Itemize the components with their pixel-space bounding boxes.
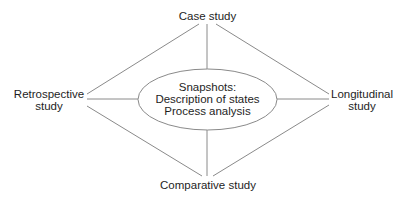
center-line-snapshots: Snapshots: [140, 81, 275, 93]
node-comparative-label: Comparative study [160, 179, 256, 191]
node-case-study-label: Case study [179, 10, 237, 22]
center-line-process: Process analysis [140, 105, 275, 117]
node-longitudinal-label-2: study [328, 100, 396, 112]
node-retrospective-study: Retrospective study [10, 88, 88, 112]
node-retrospective-label-1: Retrospective [10, 88, 88, 100]
center-ellipse-text: Snapshots: Description of states Process… [140, 81, 275, 117]
node-retrospective-label-2: study [10, 100, 88, 112]
node-longitudinal-study: Longitudinal study [328, 88, 396, 112]
node-case-study: Case study [170, 10, 245, 22]
node-longitudinal-label-1: Longitudinal [328, 88, 396, 100]
center-line-description: Description of states [140, 93, 275, 105]
node-comparative-study: Comparative study [150, 179, 266, 191]
study-types-diagram: Case study Retrospective study Longitudi… [0, 0, 406, 203]
